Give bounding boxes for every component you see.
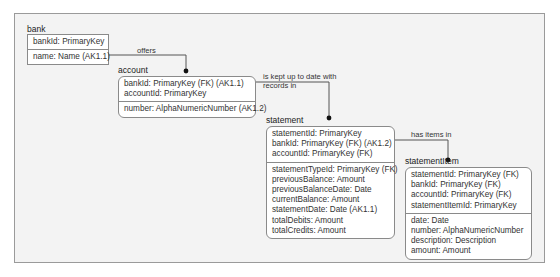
entity-bank[interactable]: bankId: PrimaryKey name: Name (AK1.1) [27, 34, 109, 65]
entity-statementitem[interactable]: statementId: PrimaryKey (FK) bankId: Pri… [405, 167, 532, 260]
attribute: bankId: PrimaryKey (FK) (AK1.1) [124, 79, 250, 89]
attribute-section: name: Name (AK1.1) [28, 50, 108, 64]
entity-account[interactable]: bankId: PrimaryKey (FK) (AK1.1) accountI… [118, 76, 256, 118]
attribute: currentBalance: Amount [272, 195, 389, 205]
relationship-label-kept-up-to-date: is kept up to date with records in [263, 72, 336, 90]
attribute: number: AlphaNumericNumber [411, 226, 526, 236]
attribute: date: Date [411, 216, 526, 226]
relationship-label-has-items-in: has items in [411, 130, 452, 139]
attribute: previousBalance: Amount [272, 175, 389, 185]
attribute: statementId: PrimaryKey (FK) [411, 170, 526, 180]
key-section: statementId: PrimaryKey (FK) bankId: Pri… [406, 168, 531, 214]
attribute: name: Name (AK1.1) [33, 52, 103, 62]
attribute: bankId: PrimaryKey [33, 37, 103, 47]
relationship-label-offers: offers [137, 46, 156, 55]
attribute: statementTypeId: PrimaryKey (FK) [272, 165, 389, 175]
entity-statement[interactable]: statementId: PrimaryKey bankId: PrimaryK… [266, 126, 395, 239]
attribute: statementDate: Date (AK1.1) [272, 205, 389, 215]
attribute: bankId: PrimaryKey (FK) (AK1.2) [272, 139, 389, 149]
label-line: is kept up to date with [263, 72, 336, 81]
key-section: bankId: PrimaryKey [28, 35, 108, 50]
key-section: bankId: PrimaryKey (FK) (AK1.1) accountI… [119, 77, 255, 102]
label-line: records in [263, 81, 336, 90]
entity-name-statement: statement [266, 115, 303, 125]
entity-name-account: account [118, 65, 148, 75]
entity-name-statementitem: statementItem [405, 156, 459, 166]
attribute: statementItemId: PrimaryKey [411, 201, 526, 211]
attribute: number: AlphaNumericNumber (AK1.2) [124, 104, 250, 114]
attribute-section: number: AlphaNumericNumber (AK1.2) [119, 102, 255, 116]
attribute: amount: Amount [411, 246, 526, 256]
attribute: description: Description [411, 236, 526, 246]
attribute: statementId: PrimaryKey [272, 129, 389, 139]
entity-name-bank: bank [27, 24, 45, 34]
attribute: bankId: PrimaryKey (FK) [411, 180, 526, 190]
key-section: statementId: PrimaryKey bankId: PrimaryK… [267, 127, 394, 163]
attribute: previousBalanceDate: Date [272, 185, 389, 195]
attribute: totalDebits: Amount [272, 216, 389, 226]
attribute-section: date: Date number: AlphaNumericNumber de… [406, 214, 531, 259]
attribute-section: statementTypeId: PrimaryKey (FK) previou… [267, 163, 394, 238]
attribute: accountId: PrimaryKey [124, 89, 250, 99]
attribute: totalCredits: Amount [272, 226, 389, 236]
attribute: accountId: PrimaryKey (FK) [272, 149, 389, 159]
attribute: accountId: PrimaryKey (FK) [411, 190, 526, 200]
